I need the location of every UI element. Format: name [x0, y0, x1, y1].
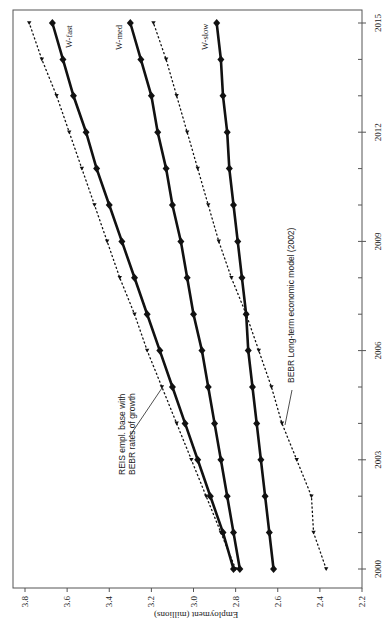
x-tick-label: 2015: [373, 14, 383, 33]
series-w-slow: [213, 19, 277, 573]
triangle-marker-icon: [257, 349, 261, 353]
diamond-marker-icon: [217, 456, 224, 464]
diamond-marker-icon: [49, 19, 56, 27]
y-tick-label: 3.6: [62, 596, 72, 608]
y-tick-label: 2.6: [273, 596, 283, 608]
y-tick-label: 3.0: [189, 596, 199, 608]
diamond-marker-icon: [245, 347, 252, 355]
diamond-marker-icon: [182, 419, 189, 427]
diamond-marker-icon: [238, 274, 245, 282]
diamond-marker-icon: [226, 165, 233, 173]
diamond-marker-icon: [144, 310, 151, 318]
diamond-marker-icon: [184, 274, 191, 282]
employment-projection-chart: 2.22.42.62.83.03.23.43.63.82000200320062…: [0, 0, 391, 628]
diamond-marker-icon: [148, 92, 155, 100]
diamond-marker-icon: [137, 55, 144, 63]
diamond-marker-icon: [194, 456, 201, 464]
series-w-med: [127, 19, 244, 573]
triangle-marker-icon: [311, 531, 315, 535]
triangle-marker-icon: [206, 203, 210, 207]
series-layer: [27, 19, 328, 573]
triangle-marker-icon: [229, 276, 233, 280]
diamond-marker-icon: [190, 310, 197, 318]
diamond-marker-icon: [83, 128, 90, 136]
diamond-marker-icon: [257, 456, 264, 464]
triangle-marker-icon: [174, 422, 178, 426]
diamond-marker-icon: [230, 529, 237, 537]
diamond-marker-icon: [219, 92, 226, 100]
diamond-marker-icon: [70, 92, 77, 100]
triangle-marker-icon: [92, 203, 96, 207]
diamond-marker-icon: [198, 347, 205, 355]
diamond-marker-icon: [207, 492, 214, 500]
triangle-marker-icon: [27, 21, 31, 25]
triangle-marker-icon: [132, 312, 136, 316]
diamond-marker-icon: [266, 529, 273, 537]
diamond-marker-icon: [131, 274, 138, 282]
x-tick-label: 2006: [373, 341, 383, 360]
series-reis-empl-base-with-bebr-rates-of-growth: [27, 21, 238, 571]
diamond-marker-icon: [163, 165, 170, 173]
diamond-marker-icon: [169, 383, 176, 391]
diamond-marker-icon: [217, 55, 224, 63]
diamond-marker-icon: [59, 55, 66, 63]
diamond-marker-icon: [205, 383, 212, 391]
diamond-marker-icon: [213, 19, 220, 27]
series-label-w-slow: W-slow: [200, 23, 210, 50]
triangle-marker-icon: [324, 567, 328, 571]
series-w-fast: [49, 19, 237, 573]
triangle-marker-icon: [118, 276, 122, 280]
diamond-marker-icon: [224, 128, 231, 136]
x-tick-label: 2012: [373, 123, 383, 141]
diamond-marker-icon: [93, 165, 100, 173]
diamond-marker-icon: [249, 383, 256, 391]
x-tick-label: 2000: [373, 560, 383, 579]
y-tick-label: 3.8: [20, 596, 30, 608]
triangle-marker-icon: [40, 58, 44, 62]
triangle-marker-icon: [145, 349, 149, 353]
diamond-marker-icon: [224, 492, 231, 500]
triangle-marker-icon: [151, 21, 155, 25]
annotation-bebr-pointer: [285, 390, 292, 425]
triangle-marker-icon: [80, 167, 84, 171]
diamond-marker-icon: [236, 565, 243, 573]
y-tick-label: 3.2: [146, 596, 156, 607]
x-tick-label: 2009: [373, 232, 383, 251]
triangle-marker-icon: [280, 422, 284, 426]
diamond-marker-icon: [106, 201, 113, 209]
series-label-w-fast: W-fast: [64, 25, 74, 48]
diamond-marker-icon: [234, 237, 241, 245]
diamond-marker-icon: [127, 19, 134, 27]
diamond-marker-icon: [118, 237, 125, 245]
triangle-marker-icon: [185, 130, 189, 134]
diamond-marker-icon: [169, 201, 176, 209]
y-tick-label: 2.4: [315, 596, 325, 608]
annotation-reis-line2: BEBR rates of growth: [127, 393, 137, 475]
triangle-marker-icon: [196, 167, 200, 171]
annotation-bebr: BEBR Long-term economic model (2002): [286, 227, 296, 383]
diamond-marker-icon: [270, 565, 277, 573]
triangle-marker-icon: [164, 58, 168, 62]
y-tick-label: 2.2: [357, 596, 367, 607]
diamond-marker-icon: [262, 492, 269, 500]
annotation-reis-line1: REIS empl. base with: [117, 393, 127, 475]
diamond-marker-icon: [154, 128, 161, 136]
series-bebr-long-term-economic-model-2002-: [151, 21, 328, 571]
diamond-marker-icon: [253, 419, 260, 427]
diamond-marker-icon: [211, 419, 218, 427]
triangle-marker-icon: [105, 240, 109, 244]
y-axis-title: Employment (millions): [154, 610, 238, 620]
x-tick-label: 2003: [373, 450, 383, 469]
triangle-marker-icon: [189, 458, 193, 462]
triangle-marker-icon: [174, 94, 178, 98]
triangle-marker-icon: [67, 130, 71, 134]
plot-frame: [13, 10, 362, 588]
triangle-marker-icon: [309, 494, 313, 498]
diamond-marker-icon: [230, 201, 237, 209]
y-tick-label: 2.8: [231, 596, 241, 608]
triangle-marker-icon: [295, 458, 299, 462]
diamond-marker-icon: [156, 347, 163, 355]
triangle-marker-icon: [269, 385, 273, 389]
diamond-marker-icon: [177, 237, 184, 245]
series-label-w-med: W-med: [114, 24, 124, 50]
